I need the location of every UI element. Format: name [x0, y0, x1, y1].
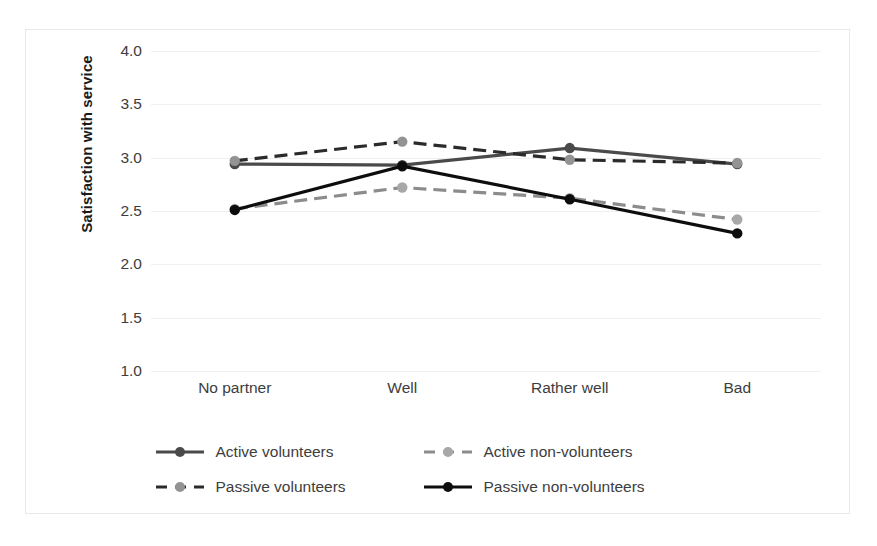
data-point-marker	[565, 155, 575, 165]
legend-item[interactable]: Active volunteers	[155, 443, 423, 461]
chart-legend: Active volunteersActive non-volunteersPa…	[26, 434, 851, 504]
x-tick-label: No partner	[198, 379, 271, 397]
data-point-marker	[732, 228, 742, 238]
series-line	[235, 142, 738, 163]
y-tick-label: 3.0	[120, 149, 142, 167]
legend-swatch-icon	[423, 444, 473, 460]
legend-row: Passive volunteersPassive non-volunteers	[26, 469, 851, 504]
y-tick-label: 1.5	[120, 309, 142, 327]
y-tick-label: 2.5	[120, 202, 142, 220]
legend-swatch-icon	[155, 444, 205, 460]
x-tick-label: Bad	[723, 379, 751, 397]
legend-row: Active volunteersActive non-volunteers	[26, 434, 851, 469]
legend-item[interactable]: Active non-volunteers	[423, 443, 723, 461]
series-line	[235, 188, 738, 220]
legend-item[interactable]: Passive non-volunteers	[423, 478, 723, 496]
data-point-marker	[230, 205, 240, 215]
legend-label: Active non-volunteers	[484, 443, 633, 461]
y-tick-label: 4.0	[120, 42, 142, 60]
legend-swatch-icon	[155, 479, 205, 495]
legend-label: Passive volunteers	[216, 478, 346, 496]
data-point-marker	[230, 156, 240, 166]
y-tick-label: 3.5	[120, 95, 142, 113]
legend-swatch-icon	[423, 479, 473, 495]
chart-figure: Satisfaction with service 1.01.52.02.53.…	[25, 29, 850, 514]
data-point-marker	[565, 194, 575, 204]
data-point-marker	[397, 136, 407, 146]
data-point-marker	[565, 143, 575, 153]
legend-item[interactable]: Passive volunteers	[155, 478, 423, 496]
legend-label: Passive non-volunteers	[484, 478, 645, 496]
x-tick-label: Well	[387, 379, 417, 397]
x-tick-label: Rather well	[531, 379, 609, 397]
y-tick-label: 2.0	[120, 255, 142, 273]
series-line	[235, 166, 738, 233]
y-axis-title: Satisfaction with service	[78, 29, 100, 259]
data-point-marker	[397, 161, 407, 171]
gridline	[151, 371, 821, 372]
y-tick-label: 1.0	[120, 362, 142, 380]
plot-area: 1.01.52.02.53.03.54.0 No partnerWellRath…	[151, 51, 821, 371]
series-lines	[151, 51, 821, 371]
legend-label: Active volunteers	[216, 443, 334, 461]
data-point-marker	[732, 214, 742, 224]
data-point-marker	[397, 182, 407, 192]
data-point-marker	[732, 158, 742, 168]
